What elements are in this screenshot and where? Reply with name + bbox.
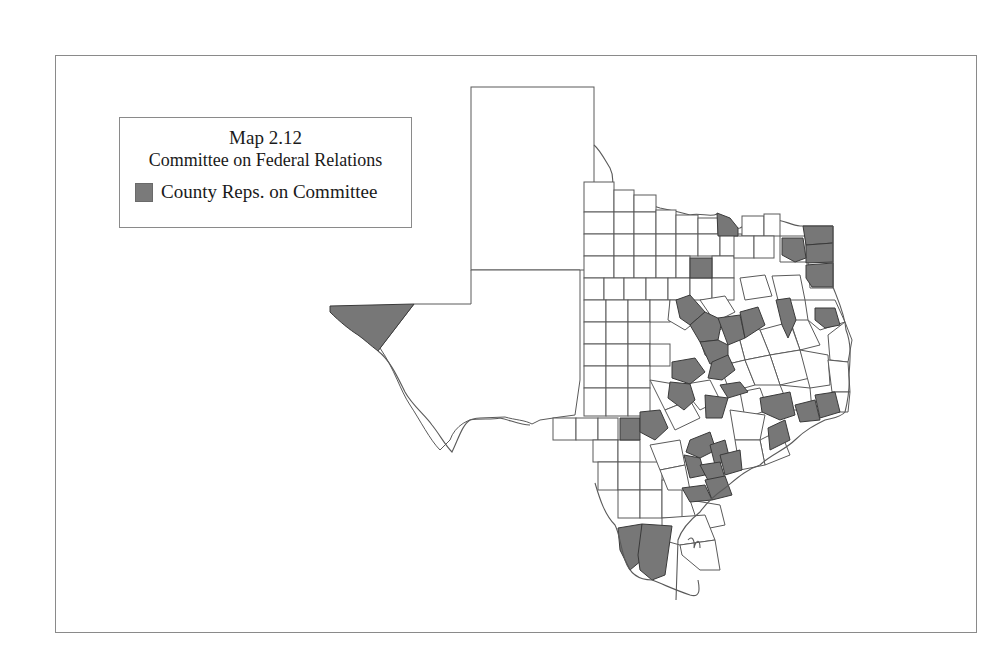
shaded-swatch-icon — [135, 183, 153, 202]
legend-entry-label: County Reps. on Committee — [161, 181, 377, 203]
legend-entry: County Reps. on Committee — [120, 181, 411, 203]
panhandle-region — [471, 87, 594, 270]
map-legend: Map 2.12 Committee on Federal Relations … — [119, 117, 412, 228]
legend-subtitle: Committee on Federal Relations — [120, 149, 411, 171]
texas-county-map — [0, 0, 986, 663]
west-texas-region — [380, 270, 580, 450]
legend-title: Map 2.12 — [120, 127, 411, 149]
